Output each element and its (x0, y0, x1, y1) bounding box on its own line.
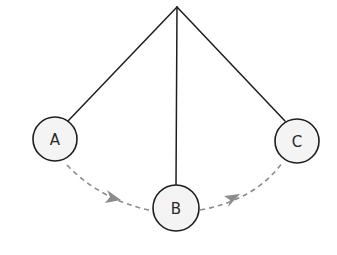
bob-c-label: C (292, 133, 302, 151)
string-to-b (176, 7, 177, 185)
string-to-c (177, 7, 285, 121)
bob-c: C (275, 119, 319, 163)
pendulum-strings (68, 7, 285, 185)
string-to-a (68, 7, 177, 121)
pendulum-diagram: A B C (0, 0, 337, 255)
bob-b-label: B (171, 200, 181, 218)
arrow-b-to-c-icon (224, 194, 240, 207)
bob-a: A (33, 117, 77, 161)
arc-b-to-c (200, 163, 282, 210)
arc-a-to-b (67, 165, 153, 211)
bob-b: B (153, 185, 199, 231)
bob-a-label: A (50, 131, 61, 149)
